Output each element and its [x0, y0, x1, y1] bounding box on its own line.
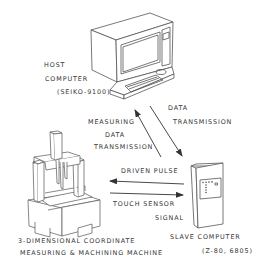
host-computer-label-line1: HOST	[44, 61, 65, 69]
desktop-computer-icon	[91, 13, 174, 99]
touch-sensor-label-line2: SIGNAL	[155, 214, 184, 222]
tower-computer-icon	[191, 163, 223, 228]
touch-sensor-label-line1: TOUCH SENSOR	[113, 200, 175, 208]
host-computer-model-label: (SEIKO-9100)	[57, 88, 110, 96]
measuring-data-label-line1: MEASURING	[88, 118, 135, 126]
driven-pulse-label: DRIVEN PULSE	[121, 167, 178, 175]
machine-label-line1: 3-DIMENSIONAL COORDINATE	[18, 237, 135, 245]
diagram-artwork	[0, 0, 264, 264]
machine-label-line2: MEASURING & MACHINING MACHINE	[20, 249, 163, 257]
data-transmission-label-line1: DATA	[168, 104, 188, 112]
arrow-data-transmission	[150, 106, 182, 156]
measuring-data-label-line3: TRANSMISSION	[94, 143, 153, 151]
cmm-machine-icon	[28, 131, 100, 237]
slave-computer-label: SLAVE COMPUTER	[170, 233, 241, 241]
slave-computer-model-label: (Z-80, 6805)	[202, 247, 253, 255]
measuring-data-label-line2: DATA	[105, 131, 125, 139]
data-transmission-label-line2: TRANSMISSION	[173, 118, 232, 126]
arrow-touch-sensor-signal	[110, 193, 183, 195]
host-computer-label-line2: COMPUTER	[45, 75, 88, 83]
system-diagram: HOST COMPUTER (SEIKO-9100) MEASURING DAT…	[0, 0, 264, 264]
arrow-driven-pulse	[110, 181, 184, 184]
